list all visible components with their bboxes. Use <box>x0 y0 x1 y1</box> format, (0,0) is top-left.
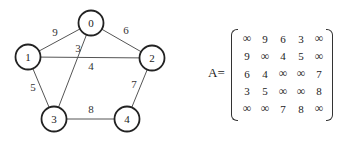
matrix-cell: 4 <box>274 50 292 62</box>
matrix-cell: 3 <box>238 85 256 97</box>
matrix-cell: 3 <box>292 33 310 45</box>
adjacency-matrix: A= ∞963∞9∞45∞64∞∞735∞∞8∞∞78∞ <box>208 29 338 121</box>
edge-1-2 <box>40 57 139 58</box>
node-0: 0 <box>79 11 104 36</box>
node-label: 2 <box>149 52 155 64</box>
matrix-cell: ∞ <box>274 84 292 99</box>
matrix-cell: ∞ <box>256 101 274 116</box>
edge-weight-3-4: 8 <box>88 103 94 115</box>
matrix-left-bracket <box>231 29 238 121</box>
edge-0-1 <box>39 29 80 51</box>
matrix-cell: ∞ <box>256 49 274 64</box>
matrix-row: ∞963∞ <box>238 30 328 48</box>
matrix-cell: ∞ <box>274 66 292 81</box>
matrix-cell: 7 <box>274 103 292 115</box>
matrix-cell: ∞ <box>238 31 256 46</box>
edge-weight-2-4: 7 <box>131 78 137 90</box>
matrix-row: 64∞∞7 <box>238 65 328 83</box>
node-2: 2 <box>140 46 165 71</box>
edge-weight-0-3: 3 <box>75 42 81 54</box>
matrix-cell: 5 <box>256 85 274 97</box>
matrix-cell: 6 <box>274 33 292 45</box>
node-label: 4 <box>124 113 130 125</box>
edge-weight-1-2: 4 <box>88 60 94 72</box>
edge-weight-1-3: 5 <box>30 81 36 93</box>
matrix-cell: 4 <box>256 68 274 80</box>
matrix-cell: ∞ <box>292 66 310 81</box>
graph-diagram: 963457801234 <box>0 0 180 143</box>
matrix-cell: 9 <box>256 33 274 45</box>
node-1: 1 <box>16 45 41 70</box>
matrix-row: 9∞45∞ <box>238 48 328 66</box>
node-label: 0 <box>88 17 94 29</box>
edge-0-2 <box>102 29 141 52</box>
matrix-cell: 5 <box>292 50 310 62</box>
node-label: 3 <box>51 113 57 125</box>
matrix-row: ∞∞78∞ <box>238 100 328 118</box>
matrix-row: 35∞∞8 <box>238 83 328 101</box>
matrix-label: A= <box>208 65 225 81</box>
node-4: 4 <box>115 107 140 132</box>
matrix-cells: ∞963∞9∞45∞64∞∞735∞∞8∞∞78∞ <box>238 30 328 118</box>
node-label: 1 <box>25 51 31 63</box>
matrix-cell: 8 <box>292 103 310 115</box>
matrix-right-bracket <box>326 29 333 121</box>
edge-weight-0-2: 6 <box>123 24 129 36</box>
edge-weight-0-1: 9 <box>52 26 58 38</box>
matrix-cell: ∞ <box>292 84 310 99</box>
node-3: 3 <box>42 107 67 132</box>
matrix-cell: ∞ <box>238 101 256 116</box>
matrix-cell: 9 <box>238 50 256 62</box>
edge-0-3 <box>58 35 86 108</box>
matrix-cell: 6 <box>238 68 256 80</box>
